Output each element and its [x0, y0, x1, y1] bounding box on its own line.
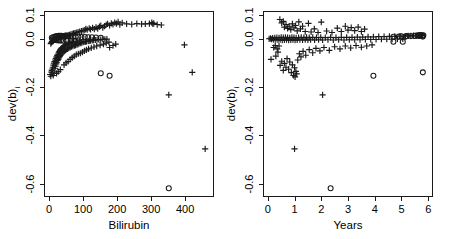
x-tick-label: 2	[318, 204, 324, 215]
x-tick-label: 300	[142, 204, 160, 215]
y-tick	[259, 135, 263, 136]
x-tick	[401, 197, 402, 201]
y-tick-label: 0.0	[244, 24, 255, 54]
x-tick-label: 400	[176, 204, 194, 215]
x-tick-label: 4	[372, 204, 378, 215]
x-tick	[49, 197, 50, 201]
y-tick	[259, 184, 263, 185]
x-tick	[428, 197, 429, 201]
y-tick-label: -0.2	[244, 72, 255, 102]
x-tick-label: 200	[108, 204, 126, 215]
y-tick-label: -0.6	[244, 169, 255, 199]
x-tick-label: 6	[425, 204, 431, 215]
x-tick-label: 1	[291, 204, 297, 215]
plot-frame-left	[44, 11, 214, 197]
y-tick	[40, 184, 44, 185]
panel-years: 01234560.10.0-0.2-0.4-0.6 Years dev(b)i	[227, 0, 453, 239]
y-tick-label: -0.4	[244, 120, 255, 150]
x-tick-label: 100	[74, 204, 92, 215]
y-axis-title-subscript-right: i	[232, 87, 241, 89]
y-tick-label: 0.0	[25, 24, 36, 54]
y-tick	[40, 15, 44, 16]
x-tick-label: 3	[345, 204, 351, 215]
y-axis-title-left: dev(b)i	[6, 74, 23, 134]
x-tick	[117, 197, 118, 201]
y-tick	[40, 39, 44, 40]
x-tick	[295, 197, 296, 201]
y-tick	[40, 135, 44, 136]
x-axis-title-right: Years	[334, 219, 363, 231]
y-tick-label: -0.2	[25, 72, 36, 102]
x-tick	[321, 197, 322, 201]
y-axis-title-right: dev(b)i	[225, 74, 242, 134]
x-tick	[185, 197, 186, 201]
y-axis-title-subscript-left: i	[13, 87, 22, 89]
x-tick	[83, 197, 84, 201]
x-tick-label: 5	[398, 204, 404, 215]
x-tick	[348, 197, 349, 201]
y-tick-label: -0.6	[25, 169, 36, 199]
x-tick	[268, 197, 269, 201]
y-tick-label: -0.4	[25, 120, 36, 150]
x-tick	[375, 197, 376, 201]
y-tick	[259, 15, 263, 16]
plot-frame-right	[263, 11, 433, 197]
y-tick	[40, 87, 44, 88]
x-axis-title-left: Bilirubin	[109, 219, 150, 231]
y-axis-title-text-left: dev(b)	[6, 89, 18, 122]
scatter-figure: 01002003004000.10.0-0.2-0.4-0.6 Bilirubi…	[0, 0, 453, 239]
x-tick-label: 0	[46, 204, 52, 215]
x-tick-label: 0	[265, 204, 271, 215]
y-tick	[259, 87, 263, 88]
y-axis-title-text-right: dev(b)	[225, 89, 237, 122]
y-tick	[259, 39, 263, 40]
panel-bilirubin: 01002003004000.10.0-0.2-0.4-0.6 Bilirubi…	[0, 0, 226, 239]
x-tick	[151, 197, 152, 201]
